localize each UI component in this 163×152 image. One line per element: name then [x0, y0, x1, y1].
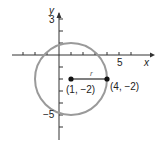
- point-label-edge: (4, −2): [110, 82, 139, 92]
- y-tick-label-3: 3: [49, 15, 55, 25]
- x-axis-label: x: [144, 58, 149, 68]
- y-ticks: [59, 19, 63, 127]
- center-point: [68, 76, 73, 81]
- edge-point: [104, 76, 109, 81]
- point-label-center: (1, −2): [66, 85, 95, 95]
- y-tick-label-neg5: −5: [43, 110, 54, 120]
- x-axis-arrow-icon: [150, 53, 155, 58]
- x-tick-label-5: 5: [117, 58, 123, 68]
- radius-label: r: [90, 70, 93, 78]
- y-axis-arrow-icon: [57, 12, 62, 18]
- graph: [0, 0, 163, 152]
